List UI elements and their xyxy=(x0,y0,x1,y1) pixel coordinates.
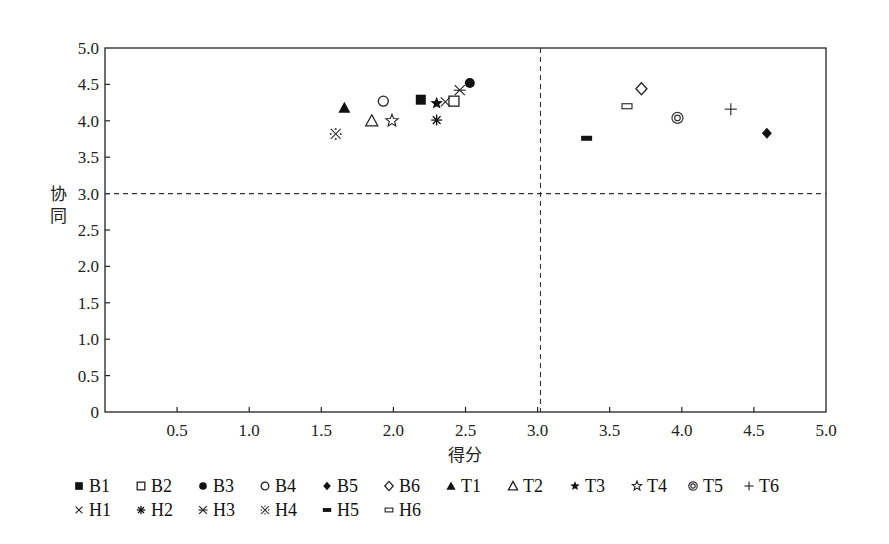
x-bar-icon xyxy=(196,503,210,517)
data-point-h4 xyxy=(330,128,342,140)
legend: B1B2B3B4B5B6T1T2T3T4T5T6 H1H2H3H4H5H6 xyxy=(72,474,872,522)
legend-label: H3 xyxy=(213,500,235,521)
legend-item-b4: B4 xyxy=(258,476,320,497)
legend-row: B1B2B3B4B5B6T1T2T3T4T5T6 xyxy=(72,474,872,498)
legend-item-b5: B5 xyxy=(320,476,382,497)
legend-label: T1 xyxy=(461,476,481,497)
legend-label: T4 xyxy=(647,476,667,497)
data-point-t3 xyxy=(430,97,442,109)
open-star-icon xyxy=(630,479,644,493)
legend-label: B3 xyxy=(213,476,234,497)
legend-item-h3: H3 xyxy=(196,500,258,521)
filled-bar-icon xyxy=(320,503,334,517)
y-tick-label: 0 xyxy=(91,403,100,422)
data-point-b3 xyxy=(465,78,475,88)
legend-label: T6 xyxy=(759,476,779,497)
x-tick-label: 4.0 xyxy=(671,421,692,440)
legend-item-b2: B2 xyxy=(134,476,196,497)
legend-item-h2: H2 xyxy=(134,500,196,521)
x-tick-label: 2.0 xyxy=(383,421,404,440)
reference-mark-icon xyxy=(258,503,272,517)
legend-label: B4 xyxy=(275,476,296,497)
data-point-b1 xyxy=(416,95,426,105)
legend-label: H4 xyxy=(275,500,297,521)
x-axis-title: 得分 xyxy=(448,445,482,465)
data-point-t5 xyxy=(672,112,683,123)
legend-item-b1: B1 xyxy=(72,476,134,497)
filled-square-icon xyxy=(72,479,86,493)
open-triangle-icon xyxy=(506,479,520,493)
data-point-b6 xyxy=(636,83,647,95)
x-tick-label: 1.5 xyxy=(311,421,332,440)
x-cross-icon xyxy=(72,503,86,517)
data-point-h5 xyxy=(581,136,592,141)
legend-label: T3 xyxy=(585,476,605,497)
data-point-h6 xyxy=(622,104,632,109)
data-point-t4 xyxy=(386,114,398,126)
y-tick-label: 4.0 xyxy=(78,112,99,131)
x-tick-label: 3.5 xyxy=(599,421,620,440)
legend-item-t6: T6 xyxy=(742,476,804,497)
bullseye-icon xyxy=(686,479,700,493)
legend-item-h4: H4 xyxy=(258,500,320,521)
x-tick-label: 5.0 xyxy=(815,421,836,440)
svg-text:同: 同 xyxy=(50,206,67,226)
y-tick-label: 4.5 xyxy=(78,75,99,94)
legend-label: B6 xyxy=(399,476,420,497)
x-tick-label: 2.5 xyxy=(455,421,476,440)
data-point-t6 xyxy=(725,103,737,115)
x-tick-label: 4.5 xyxy=(743,421,764,440)
data-point-h2 xyxy=(431,115,442,126)
x-tick-label: 3.0 xyxy=(527,421,548,440)
y-tick-label: 3.0 xyxy=(78,185,99,204)
legend-label: B2 xyxy=(151,476,172,497)
legend-item-t2: T2 xyxy=(506,476,568,497)
y-axis-title: 协 同 xyxy=(50,184,67,226)
svg-text:协: 协 xyxy=(50,184,67,204)
open-square-icon xyxy=(134,479,148,493)
legend-item-h1: H1 xyxy=(72,500,134,521)
data-point-t1 xyxy=(338,102,350,113)
filled-circle-icon xyxy=(196,479,210,493)
legend-label: H5 xyxy=(337,500,359,521)
x-tick-label: 1.0 xyxy=(239,421,260,440)
open-circle-icon xyxy=(258,479,272,493)
data-point-b4 xyxy=(378,96,388,106)
legend-label: T2 xyxy=(523,476,543,497)
plot-frame xyxy=(105,48,826,412)
legend-item-t5: T5 xyxy=(686,476,742,497)
legend-label: T5 xyxy=(703,476,723,497)
data-point-b2 xyxy=(449,96,459,106)
open-bar-icon xyxy=(382,503,396,517)
y-tick-label: 1.5 xyxy=(78,294,99,313)
data-points xyxy=(330,78,772,141)
plus-icon xyxy=(742,479,756,493)
y-tick-label: 2.5 xyxy=(78,221,99,240)
reference-lines xyxy=(105,48,826,412)
legend-item-h6: H6 xyxy=(382,500,444,521)
legend-item-t4: T4 xyxy=(630,476,686,497)
legend-item-t3: T3 xyxy=(568,476,630,497)
open-diamond-icon xyxy=(382,479,396,493)
y-tick-label: 1.0 xyxy=(78,330,99,349)
x-tick-label: 0.5 xyxy=(166,421,187,440)
legend-label: H2 xyxy=(151,500,173,521)
y-tick-label: 2.0 xyxy=(78,257,99,276)
asterisk-icon xyxy=(134,503,148,517)
y-tick-label: 3.5 xyxy=(78,148,99,167)
scatter-chart: 00.51.01.52.02.53.03.54.04.55.0 0.51.01.… xyxy=(0,0,889,470)
legend-row: H1H2H3H4H5H6 xyxy=(72,498,872,522)
data-point-t2 xyxy=(366,115,378,126)
data-point-h3 xyxy=(454,85,466,95)
legend-item-b6: B6 xyxy=(382,476,444,497)
legend-item-b3: B3 xyxy=(196,476,258,497)
legend-label: B5 xyxy=(337,476,358,497)
legend-label: H6 xyxy=(399,500,421,521)
legend-item-t1: T1 xyxy=(444,476,506,497)
filled-star-icon xyxy=(568,479,582,493)
y-tick-label: 0.5 xyxy=(78,367,99,386)
filled-triangle-icon xyxy=(444,479,458,493)
filled-diamond-icon xyxy=(320,479,334,493)
y-tick-label: 5.0 xyxy=(78,39,99,58)
data-point-b5 xyxy=(762,128,772,139)
